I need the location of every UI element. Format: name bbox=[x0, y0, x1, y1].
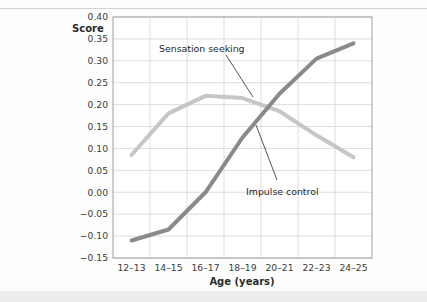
y-axis-tick-label: 0.05 bbox=[88, 165, 109, 176]
y-axis-title: Score bbox=[72, 23, 104, 34]
x-axis-tick-label: 24–25 bbox=[340, 262, 368, 273]
x-axis-tick-label: 12–13 bbox=[118, 262, 146, 273]
y-axis-tick-label: 0.20 bbox=[88, 99, 109, 110]
x-axis-tick-label: 18–19 bbox=[229, 262, 257, 273]
y-axis-tick-label: 0.15 bbox=[88, 121, 109, 132]
y-axis-tick-label: 0.30 bbox=[88, 55, 109, 66]
figure-container: 0.400.350.300.250.200.150.100.050.00−0.0… bbox=[0, 0, 427, 302]
x-axis-tick-label: 14–15 bbox=[155, 262, 183, 273]
y-axis-tick-label: −0.10 bbox=[80, 230, 108, 241]
y-axis-tick-label: 0.35 bbox=[88, 33, 109, 44]
y-axis-tick-label: 0.25 bbox=[88, 77, 109, 88]
line-chart: 0.400.350.300.250.200.150.100.050.00−0.0… bbox=[0, 0, 427, 302]
y-axis-tick-labels: 0.400.350.300.250.200.150.100.050.00−0.0… bbox=[80, 11, 108, 263]
x-axis-title: Age (years) bbox=[209, 276, 274, 287]
x-axis-tick-label: 16–17 bbox=[192, 262, 220, 273]
impulse-control-label: Impulse control bbox=[246, 186, 319, 197]
x-axis-tick-labels: 12–1314–1516–1718–1920–2122–2324–25 bbox=[118, 262, 368, 273]
y-axis-tick-label: 0.10 bbox=[88, 143, 109, 154]
x-axis-tick-label: 22–23 bbox=[303, 262, 331, 273]
y-axis-tick-label: 0.00 bbox=[88, 187, 109, 198]
y-axis-tick-label: −0.05 bbox=[80, 208, 108, 219]
sensation-seeking-label: Sensation seeking bbox=[159, 43, 245, 54]
y-axis-tick-label: −0.15 bbox=[80, 252, 108, 263]
y-axis-tick-label: 0.40 bbox=[88, 11, 109, 22]
x-axis-tick-label: 20–21 bbox=[266, 262, 294, 273]
